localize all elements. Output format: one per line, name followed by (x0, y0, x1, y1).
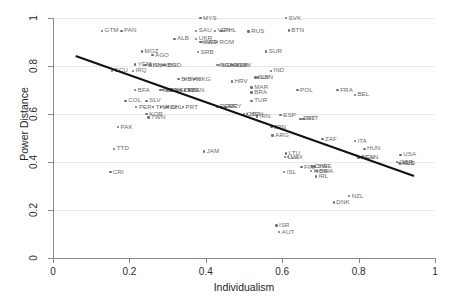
data-point (270, 70, 272, 72)
data-point (109, 171, 111, 173)
data-point-label: URY (228, 103, 241, 109)
data-point (315, 175, 317, 177)
y-tick-0.8 (48, 66, 53, 67)
data-point-label: SRB (201, 49, 214, 55)
y-tick-0.4 (48, 162, 53, 163)
data-point-label: IRQ (135, 67, 146, 73)
data-point-label: HUN (367, 145, 381, 151)
data-point-label: NLD (402, 160, 415, 166)
regression-line (75, 55, 414, 177)
data-point (200, 41, 202, 43)
data-point (231, 80, 233, 82)
data-point (288, 29, 290, 31)
data-point (250, 100, 252, 102)
data-point (363, 148, 365, 150)
data-point-label: ITA (357, 138, 366, 144)
y-tick-label-0: 0 (22, 246, 46, 270)
data-point (151, 54, 153, 56)
data-point (399, 154, 401, 156)
data-point (199, 17, 201, 19)
y-tick-label-0.2: 0.2 (22, 198, 46, 222)
data-point (145, 113, 147, 115)
data-point-label: MYS (203, 15, 217, 21)
data-point (333, 201, 335, 203)
data-point (177, 78, 179, 80)
y-axis-title: Power Distance (18, 54, 30, 194)
data-point-label: IND (273, 67, 284, 73)
data-point-label: SAU (199, 27, 212, 33)
data-point (271, 134, 273, 136)
gridline-y-1 (53, 18, 435, 19)
data-point (173, 38, 175, 40)
data-point (399, 162, 401, 164)
x-tick-0.4 (206, 258, 207, 263)
data-point (283, 171, 285, 173)
x-tick-label-1: 1 (415, 266, 454, 277)
y-tick-0.6 (48, 114, 53, 115)
data-point (299, 118, 301, 120)
data-point-label: ALB (177, 35, 189, 41)
data-point (354, 140, 356, 142)
data-point (197, 51, 199, 53)
x-tick-0.6 (282, 258, 283, 263)
data-point-label: SVK (289, 15, 302, 21)
x-axis-title: Individualism (53, 281, 435, 293)
data-point-label: AGO (155, 52, 169, 58)
data-point (152, 106, 154, 108)
data-point (300, 166, 302, 168)
data-point-label: ROM (219, 39, 234, 45)
plot-area: MYSSVKBTNGTMPANSAUPHLVENRUSALBUKRKWTARER… (53, 18, 435, 258)
data-point-label: JAM (206, 148, 219, 154)
data-point (117, 126, 119, 128)
data-point-label: USA (403, 151, 416, 157)
data-point-label: POL (300, 87, 313, 93)
data-point-label: HRV (234, 78, 247, 84)
data-point (256, 115, 258, 117)
x-axis-line (53, 258, 435, 259)
data-point-label: ARG (275, 132, 289, 138)
data-point-label: RUS (251, 28, 264, 34)
data-point (296, 89, 298, 91)
data-point (214, 30, 216, 32)
data-point-label: SUR (269, 48, 282, 54)
data-point (278, 231, 280, 233)
data-point-label: PRT (185, 104, 198, 110)
data-point (250, 86, 252, 88)
data-point-label: PAK (121, 124, 133, 130)
data-point-label: CRI (113, 169, 124, 175)
y-tick-label-1: 1 (22, 6, 46, 30)
y-tick-1 (48, 18, 53, 19)
x-tick-label-0.6: 0.6 (262, 266, 302, 277)
data-point (132, 70, 134, 72)
data-point-label: BFA (138, 87, 150, 93)
data-point-label: CHL (170, 104, 183, 110)
x-tick-label-0.2: 0.2 (109, 266, 149, 277)
data-point-label: IRL (318, 173, 328, 179)
data-point (250, 91, 252, 93)
data-point-label: BTN (291, 27, 304, 33)
data-point (113, 148, 115, 150)
data-point (195, 38, 197, 40)
data-point-label: TUR (254, 97, 267, 103)
data-point-label: NZL (352, 193, 364, 199)
data-point (203, 150, 205, 152)
y-tick-0 (48, 258, 53, 259)
data-point-label: IRN (260, 113, 271, 119)
data-point (147, 116, 149, 118)
data-point (135, 106, 137, 108)
y-tick-0.2 (48, 210, 53, 211)
data-point-label: EST (303, 115, 315, 121)
data-point-label: AUT (282, 229, 295, 235)
data-point-label: IDN (166, 62, 177, 68)
data-point (145, 100, 147, 102)
data-point-label: BRA (254, 89, 267, 95)
data-point (141, 50, 143, 52)
data-point-label: ZAF (325, 136, 337, 142)
gridline-y-0.2 (53, 210, 435, 211)
data-point-label: LUX (291, 154, 303, 160)
data-point (354, 94, 356, 96)
x-tick-0.8 (359, 258, 360, 263)
data-point-label: TWN (151, 114, 165, 120)
data-point-label: VEN (218, 27, 231, 33)
data-point-label: PAN (124, 27, 137, 33)
